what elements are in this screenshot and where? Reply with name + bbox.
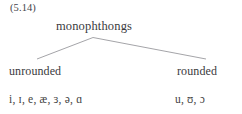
tree-child-node-unrounded: unrounded — [9, 64, 61, 79]
branch-line-left — [37, 38, 93, 60]
rounded-vowel-symbols: u, ʊ, ɔ — [175, 92, 205, 106]
unrounded-vowel-symbols: i, ɪ, e, æ, ɜ, ə, ɑ — [9, 92, 82, 106]
branch-line-right — [93, 38, 206, 60]
monophthong-tree-figure: (5.14) monophthongs unrounded rounded i,… — [0, 0, 242, 114]
tree-child-node-rounded: rounded — [177, 64, 217, 79]
